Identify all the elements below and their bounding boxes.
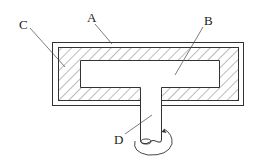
label-d: D xyxy=(114,132,123,147)
leader-line-a xyxy=(95,24,112,44)
label-c: C xyxy=(19,17,28,32)
diagram-canvas: A B C D xyxy=(0,0,260,167)
label-b: B xyxy=(204,13,213,28)
label-a: A xyxy=(87,10,97,25)
